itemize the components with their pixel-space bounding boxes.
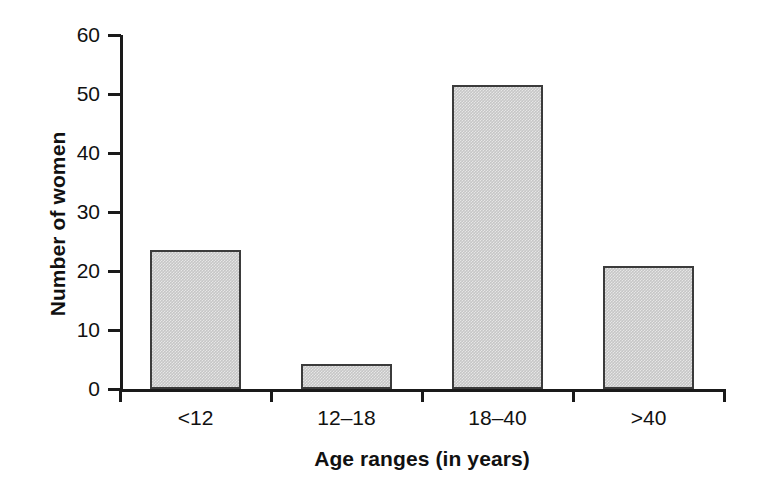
x-tick-label: 12–18 bbox=[267, 406, 427, 429]
bar bbox=[150, 250, 241, 389]
x-tick-label: 18–40 bbox=[418, 406, 578, 429]
x-tick-label: <12 bbox=[116, 406, 276, 429]
x-tick-label: >40 bbox=[569, 406, 729, 429]
bar bbox=[301, 364, 392, 389]
x-axis-title: Age ranges (in years) bbox=[120, 447, 724, 471]
bar-chart: Number of women 0102030405060 <1212–1818… bbox=[0, 0, 784, 491]
bar bbox=[452, 85, 543, 389]
bar bbox=[603, 266, 694, 389]
